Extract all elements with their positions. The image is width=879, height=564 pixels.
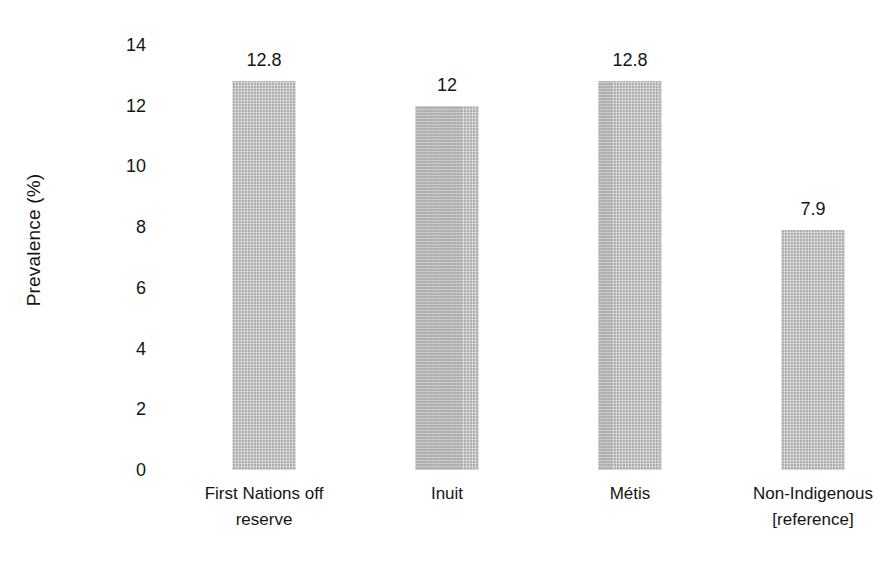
x-axis-category-label-line: Inuit bbox=[367, 481, 527, 507]
bar-chart-figure: Prevalence (%) 14121086420 12.8First Nat… bbox=[0, 0, 879, 564]
x-axis-category-label-line: Non-Indigenous bbox=[733, 481, 879, 507]
bar-group: 12.8First Nations offreserve bbox=[184, 0, 344, 564]
bar[interactable] bbox=[233, 81, 296, 470]
y-axis-tick-4: 4 bbox=[86, 340, 146, 358]
bar-group: 7.9Non-Indigenous[reference] bbox=[733, 0, 879, 564]
bar[interactable] bbox=[599, 81, 662, 470]
bar-value-label: 12 bbox=[367, 76, 527, 94]
x-axis-category-label: Non-Indigenous[reference] bbox=[733, 481, 879, 533]
x-axis-category-label: Métis bbox=[550, 481, 710, 507]
bar-value-label: 12.8 bbox=[550, 51, 710, 69]
x-axis-category-label-line: First Nations off bbox=[184, 481, 344, 507]
x-axis-category-label-line: Métis bbox=[550, 481, 710, 507]
y-axis-tick-0: 0 bbox=[86, 461, 146, 479]
bar-group: 12.8Métis bbox=[550, 0, 710, 564]
x-axis-category-label-line: [reference] bbox=[733, 507, 879, 533]
bar[interactable] bbox=[416, 106, 479, 470]
plot-area: 12.8First Nations offreserve12Inuit12.8M… bbox=[146, 0, 879, 564]
y-axis-tick-12: 12 bbox=[86, 97, 146, 115]
x-axis-category-label: Inuit bbox=[367, 481, 527, 507]
y-axis-tick-6: 6 bbox=[86, 279, 146, 297]
bar-value-label: 12.8 bbox=[184, 51, 344, 69]
bar[interactable] bbox=[782, 230, 845, 470]
x-axis-category-label-line: reserve bbox=[184, 507, 344, 533]
x-axis-category-label: First Nations offreserve bbox=[184, 481, 344, 533]
y-axis-tick-labels: 14121086420 bbox=[0, 0, 146, 564]
bar-value-label: 7.9 bbox=[733, 200, 879, 218]
bar-group: 12Inuit bbox=[367, 0, 527, 564]
y-axis-tick-2: 2 bbox=[86, 400, 146, 418]
y-axis-tick-8: 8 bbox=[86, 218, 146, 236]
y-axis-tick-14: 14 bbox=[86, 36, 146, 54]
y-axis-tick-10: 10 bbox=[86, 157, 146, 175]
